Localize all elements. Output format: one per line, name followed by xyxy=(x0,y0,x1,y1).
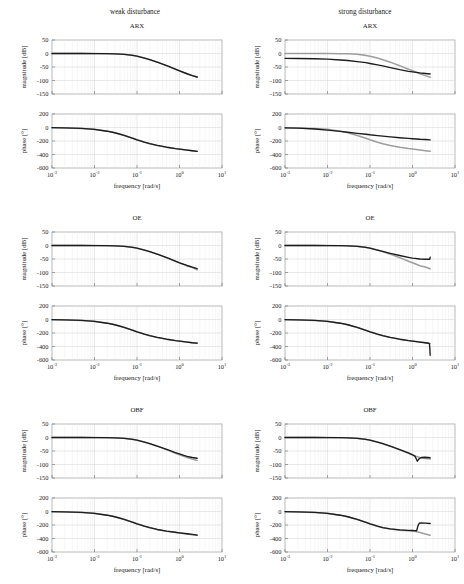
y-tick-label: -150 xyxy=(270,282,282,289)
y-tick-label: -100 xyxy=(270,269,282,276)
y-tick-label: -200 xyxy=(270,329,282,336)
y-tick-label: -150 xyxy=(37,474,49,481)
y-axis-title: phase [°] xyxy=(20,513,28,537)
x-tick-label: 10-3 xyxy=(280,554,291,562)
y-tick-label: -100 xyxy=(270,461,282,468)
x-tick-label: 100 xyxy=(175,554,184,562)
y-tick-label: 0 xyxy=(45,434,48,441)
y-tick-label: 0 xyxy=(278,50,281,57)
x-tick-label: 100 xyxy=(175,170,184,178)
x-tick-label: 10-3 xyxy=(280,362,291,370)
y-tick-label: -400 xyxy=(270,535,282,542)
x-tick-label: 10-2 xyxy=(89,362,99,370)
x-tick-label: 10-2 xyxy=(322,170,332,178)
y-tick-label: 50 xyxy=(42,228,48,235)
panel-title: ARX xyxy=(130,22,144,29)
y-tick-label: 50 xyxy=(275,420,281,427)
y-tick-label: 200 xyxy=(39,494,49,501)
y-tick-label: 0 xyxy=(45,316,48,323)
y-tick-label: 200 xyxy=(39,110,49,117)
x-axis-title: frequency [rad/s] xyxy=(347,566,394,574)
y-axis-title: phase [°] xyxy=(253,321,261,345)
y-tick-label: 50 xyxy=(275,36,281,43)
x-tick-label: 10-2 xyxy=(89,170,99,178)
y-tick-label: -200 xyxy=(270,137,282,144)
x-tick-label: 10-3 xyxy=(47,362,58,370)
y-tick-label: 0 xyxy=(45,508,48,515)
y-axis-title: phase [°] xyxy=(253,513,261,537)
panel-title: OE xyxy=(132,214,141,221)
y-tick-label: 0 xyxy=(278,242,281,249)
x-axis-title: frequency [rad/s] xyxy=(114,374,161,382)
x-tick-label: 10-3 xyxy=(47,554,58,562)
y-tick-label: -200 xyxy=(37,329,49,336)
y-tick-label: -150 xyxy=(37,282,49,289)
y-axis-title: magnitude [dB] xyxy=(253,238,261,281)
y-tick-label: -200 xyxy=(37,521,49,528)
x-tick-label: 10-1 xyxy=(365,554,375,562)
x-axis-title: frequency [rad/s] xyxy=(114,182,161,190)
panel-title: OBF xyxy=(130,406,143,413)
y-tick-label: 0 xyxy=(278,316,281,323)
x-axis-title: frequency [rad/s] xyxy=(347,182,394,190)
y-tick-label: -100 xyxy=(270,77,282,84)
y-axis-title: phase [°] xyxy=(20,129,28,153)
x-axis-title: frequency [rad/s] xyxy=(347,374,394,382)
y-tick-label: -150 xyxy=(270,474,282,481)
y-tick-label: 50 xyxy=(42,36,48,43)
x-tick-label: 10-3 xyxy=(47,170,58,178)
y-tick-label: 0 xyxy=(45,50,48,57)
y-tick-label: -200 xyxy=(270,521,282,528)
x-tick-label: 10-3 xyxy=(280,170,291,178)
y-tick-label: 200 xyxy=(272,110,282,117)
x-tick-label: 10-1 xyxy=(132,362,142,370)
y-tick-label: -50 xyxy=(273,447,282,454)
bode-plot-canvas: ARX500-50-100-150magnitude [dB]2000-200-… xyxy=(0,0,464,584)
x-tick-label: 10-1 xyxy=(132,170,142,178)
y-axis-title: phase [°] xyxy=(20,321,28,345)
x-tick-label: 101 xyxy=(218,170,227,178)
y-tick-label: -50 xyxy=(273,63,282,70)
x-tick-label: 100 xyxy=(175,362,184,370)
x-tick-label: 101 xyxy=(451,170,460,178)
x-tick-label: 10-1 xyxy=(365,362,375,370)
y-tick-label: 0 xyxy=(45,124,48,131)
x-tick-label: 100 xyxy=(408,362,417,370)
y-tick-label: 200 xyxy=(272,494,282,501)
y-tick-label: -100 xyxy=(37,269,49,276)
y-tick-label: 0 xyxy=(45,242,48,249)
y-tick-label: -50 xyxy=(40,63,49,70)
panel-title: OE xyxy=(365,214,374,221)
x-tick-label: 10-2 xyxy=(89,554,99,562)
panel-title: OBF xyxy=(363,406,376,413)
y-tick-label: 0 xyxy=(278,508,281,515)
y-axis-title: magnitude [dB] xyxy=(20,46,28,89)
x-tick-label: 101 xyxy=(218,362,227,370)
x-tick-label: 101 xyxy=(451,362,460,370)
x-tick-label: 10-2 xyxy=(322,554,332,562)
y-tick-label: -200 xyxy=(37,137,49,144)
y-tick-label: 50 xyxy=(275,228,281,235)
y-tick-label: -50 xyxy=(40,255,49,262)
y-tick-label: -400 xyxy=(270,343,282,350)
y-tick-label: 200 xyxy=(39,302,49,309)
x-tick-label: 100 xyxy=(408,554,417,562)
y-tick-label: -50 xyxy=(273,255,282,262)
y-axis-title: magnitude [dB] xyxy=(253,46,261,89)
y-tick-label: 0 xyxy=(278,124,281,131)
x-tick-label: 10-1 xyxy=(132,554,142,562)
x-axis-title: frequency [rad/s] xyxy=(114,566,161,574)
bode-plot-figure: weak disturbance strong disturbance ARX5… xyxy=(0,0,464,584)
y-tick-label: -400 xyxy=(37,151,49,158)
x-tick-label: 10-1 xyxy=(365,170,375,178)
y-tick-label: -100 xyxy=(37,77,49,84)
y-tick-label: -400 xyxy=(37,535,49,542)
panel-title: ARX xyxy=(363,22,377,29)
x-tick-label: 10-2 xyxy=(322,362,332,370)
x-tick-label: 100 xyxy=(408,170,417,178)
y-axis-title: magnitude [dB] xyxy=(253,430,261,473)
y-tick-label: 50 xyxy=(42,420,48,427)
y-tick-label: -100 xyxy=(37,461,49,468)
y-tick-label: 0 xyxy=(278,434,281,441)
y-axis-title: magnitude [dB] xyxy=(20,430,28,473)
